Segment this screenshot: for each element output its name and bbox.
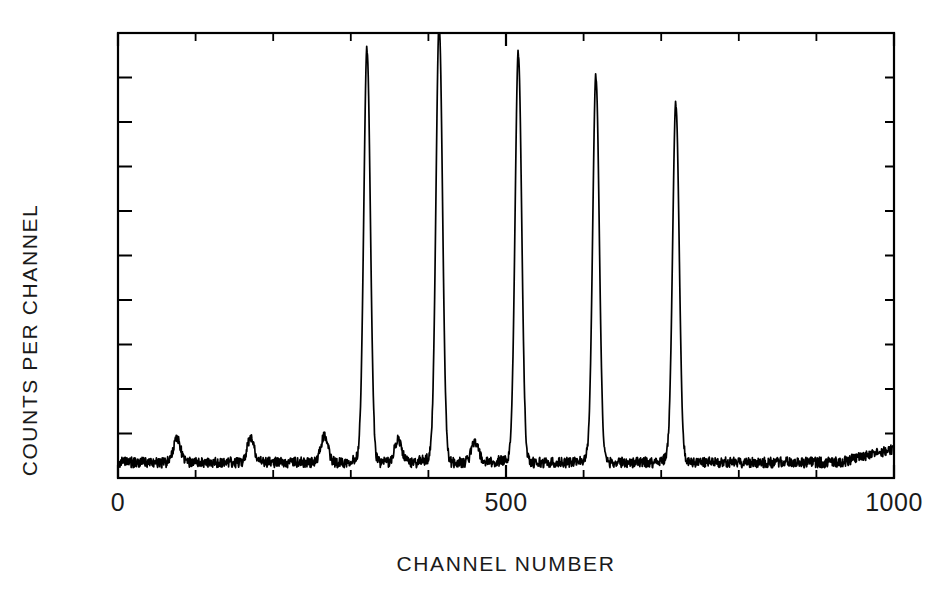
x-tick-label: 0 <box>111 488 125 517</box>
x-axis-title-text: CHANNEL NUMBER <box>397 552 616 575</box>
plot-area <box>0 0 940 596</box>
x-axis-ticks <box>118 33 894 478</box>
x-tick-label: 500 <box>484 488 527 517</box>
x-axis-title: CHANNEL NUMBER <box>118 552 894 576</box>
axis-frame <box>118 33 894 478</box>
spectrum-figure: COUNTS PER CHANNEL 05001000 CHANNEL NUMB… <box>0 0 940 596</box>
x-tick-label: 1000 <box>865 488 923 517</box>
y-axis-ticks <box>118 33 894 478</box>
spectrum-trace <box>118 22 894 468</box>
